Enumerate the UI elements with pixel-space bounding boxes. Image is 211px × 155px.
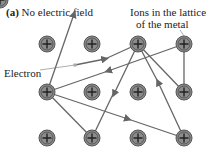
- electron-dot: [73, 63, 77, 67]
- ions: [0, 0, 211, 155]
